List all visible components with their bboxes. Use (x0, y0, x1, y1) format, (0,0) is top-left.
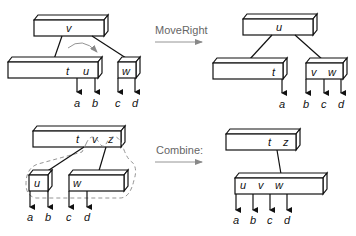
node-child-w: w (118, 57, 140, 78)
node-child-uvw: u v w (235, 173, 327, 194)
node-child-w: w (69, 170, 128, 191)
leaf-label: a (279, 98, 285, 110)
node-child-vw: v (306, 58, 347, 79)
operation-label: MoveRight (155, 24, 208, 36)
moveright-before-diagram: v t u w a b c d (8, 15, 140, 109)
leaf-label: d (132, 97, 139, 109)
node-root-v: v (34, 15, 108, 36)
leaf-label: b (250, 214, 256, 226)
leaf-label: c (267, 214, 273, 226)
node-root-tvz: t v z (33, 126, 125, 147)
leaf-label: a (27, 211, 33, 223)
key-label: w (275, 179, 284, 191)
combine-before-diagram: t v z u w a b c d (26, 126, 136, 223)
key-label: w (122, 65, 131, 77)
key-label: w (73, 177, 82, 189)
leaf-label: d (84, 211, 91, 223)
node-child-t: t (213, 58, 287, 79)
key-label: z (107, 133, 114, 145)
leaf-label: a (233, 214, 239, 226)
leaf-label: d (338, 98, 345, 110)
key-label: u (240, 179, 246, 191)
leaf-label: b (92, 97, 98, 109)
operation-label: Combine: (156, 144, 203, 156)
leaf-label: c (321, 98, 327, 110)
leaf-label: b (303, 98, 309, 110)
leaf-label: c (115, 97, 121, 109)
operation-combine: Combine: (155, 144, 203, 162)
node-root-u: u (243, 14, 317, 35)
key-label: u (34, 177, 40, 189)
node-child-u: u (29, 170, 52, 191)
leaf-label: b (45, 211, 51, 223)
move-arrow-icon (68, 43, 97, 52)
key-label: u (83, 65, 89, 77)
tree-edge (46, 147, 84, 172)
key-label: z (282, 136, 289, 148)
tree-edge (249, 35, 272, 60)
key-label: u (276, 21, 282, 33)
tree-edge (277, 150, 281, 174)
key-label: w (328, 66, 337, 78)
node-root-tz: t z (226, 129, 300, 150)
moveright-after-diagram: u t v w a b c d (213, 14, 347, 110)
combine-after-diagram: t z u v w a b c d (226, 129, 327, 226)
operation-moveright: MoveRight (155, 24, 208, 42)
node-child-tu: t u (8, 57, 102, 78)
tree-edge (295, 35, 323, 60)
leaf-label: a (74, 97, 80, 109)
leaf-label: d (284, 214, 291, 226)
leaf-label: c (66, 211, 72, 223)
tree-edge (92, 36, 126, 58)
